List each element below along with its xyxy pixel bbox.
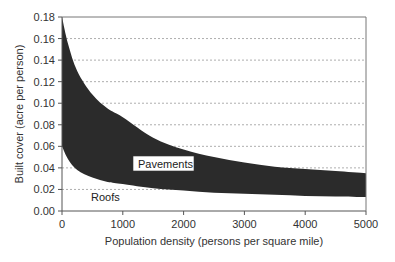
y-tick-label: 0.18 bbox=[34, 11, 55, 23]
x-axis-ticks: 010002000300040005000 bbox=[59, 211, 378, 230]
pavements-band bbox=[62, 17, 366, 197]
x-tick-label: 4000 bbox=[293, 218, 317, 230]
x-tick-label: 1000 bbox=[111, 218, 135, 230]
y-tick-label: 0.14 bbox=[34, 54, 55, 66]
pavements-label: Pavements bbox=[138, 158, 194, 170]
built-cover-chart: 0.000.020.040.060.080.100.120.140.160.18… bbox=[0, 0, 395, 262]
roofs-label: Roofs bbox=[91, 191, 120, 203]
x-axis-title: Population density (persons per square m… bbox=[105, 235, 323, 247]
x-tick-label: 2000 bbox=[171, 218, 195, 230]
y-tick-label: 0.00 bbox=[34, 205, 55, 217]
y-axis-ticks: 0.000.020.040.060.080.100.120.140.160.18 bbox=[34, 11, 62, 217]
x-tick-label: 3000 bbox=[232, 218, 256, 230]
y-tick-label: 0.12 bbox=[34, 76, 55, 88]
y-tick-label: 0.16 bbox=[34, 33, 55, 45]
y-tick-label: 0.02 bbox=[34, 183, 55, 195]
x-tick-label: 5000 bbox=[354, 218, 378, 230]
y-tick-label: 0.08 bbox=[34, 119, 55, 131]
y-tick-label: 0.06 bbox=[34, 140, 55, 152]
y-tick-label: 0.10 bbox=[34, 97, 55, 109]
x-tick-label: 0 bbox=[59, 218, 65, 230]
y-axis-title: Built cover (acre per person) bbox=[13, 45, 25, 184]
y-tick-label: 0.04 bbox=[34, 162, 55, 174]
